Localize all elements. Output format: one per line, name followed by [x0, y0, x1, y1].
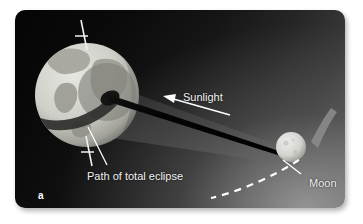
moon-crater-2 [293, 150, 297, 154]
eclipse-diagram-panel: Sunlight Path of total eclipse Moon a [15, 10, 345, 208]
orbit-arc-streak [311, 108, 337, 148]
figure-root: Sunlight Path of total eclipse Moon a [0, 0, 363, 224]
moon-orbit-dashed [211, 160, 299, 198]
label-sunlight: Sunlight [183, 92, 223, 103]
label-moon: Moon [309, 178, 337, 189]
moon-group [276, 132, 306, 162]
panel-letter-label: a [38, 191, 44, 201]
earth-group [29, 20, 147, 166]
moon-crater-1 [283, 140, 288, 145]
moon-crater-3 [292, 139, 295, 142]
label-path-of-total-eclipse: Path of total eclipse [87, 171, 183, 182]
moon-sphere [276, 132, 306, 162]
